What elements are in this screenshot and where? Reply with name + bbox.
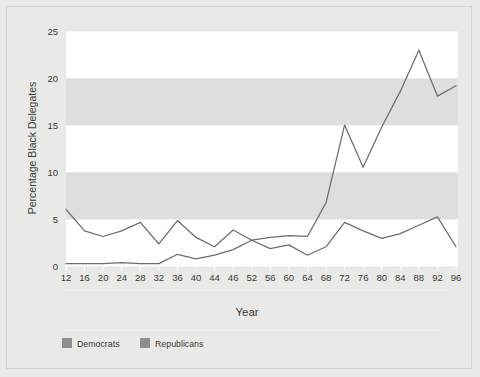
y-axis-title: Percentage Black Delegates [26,82,38,215]
x-tick-label: 80 [376,272,387,283]
x-axis-title: Year [235,306,258,318]
x-tick-label: 76 [358,272,369,283]
chart-legend: Democrats Republicans [62,338,204,349]
band-5-0 [66,220,458,267]
band-10-5 [66,173,458,220]
x-tick-label: 84 [395,272,406,283]
x-tick-label: 52 [246,272,257,283]
band-20-15 [66,79,458,126]
legend-label-republicans: Republicans [155,339,204,349]
y-tick-label: 15 [47,120,58,131]
chart-container: 25 20 15 10 5 0 Percentage Black Delegat… [0,0,480,377]
x-tick-label: 46 [228,272,239,283]
legend-swatch-republicans [140,338,150,348]
y-axis-ticks: 25 20 15 10 5 0 [47,26,58,272]
y-tick-label: 5 [53,214,58,225]
x-tick-label: 40 [191,272,202,283]
x-tick-label: 88 [414,272,425,283]
x-tick-label: 96 [451,272,462,283]
x-tick-label: 92 [432,272,443,283]
band-15-10 [66,126,458,173]
band-25-20 [66,32,458,79]
y-tick-label: 10 [47,167,58,178]
x-tick-label: 68 [321,272,332,283]
legend-swatch-democrats [62,338,72,348]
chart-svg: 25 20 15 10 5 0 Percentage Black Delegat… [0,0,480,377]
x-tick-label: 20 [98,272,109,283]
x-tick-label: 72 [339,272,350,283]
y-tick-label: 0 [53,261,58,272]
x-axis-tick-marks [66,266,456,271]
x-tick-label: 36 [172,272,183,283]
x-tick-label: 64 [302,272,313,283]
x-tick-label: 12 [61,272,72,283]
x-tick-label: 60 [284,272,295,283]
x-tick-label: 24 [116,272,127,283]
y-tick-label: 20 [47,73,58,84]
legend-label-democrats: Democrats [77,339,120,349]
plot-background [66,32,458,267]
x-tick-label: 16 [79,272,90,283]
x-tick-label: 32 [154,272,165,283]
x-tick-label: 28 [135,272,146,283]
x-axis-tick-labels: 1216202428323640444652566064687276808488… [61,272,462,283]
y-tick-label: 25 [47,26,58,37]
x-tick-label: 56 [265,272,276,283]
x-tick-label: 44 [209,272,220,283]
